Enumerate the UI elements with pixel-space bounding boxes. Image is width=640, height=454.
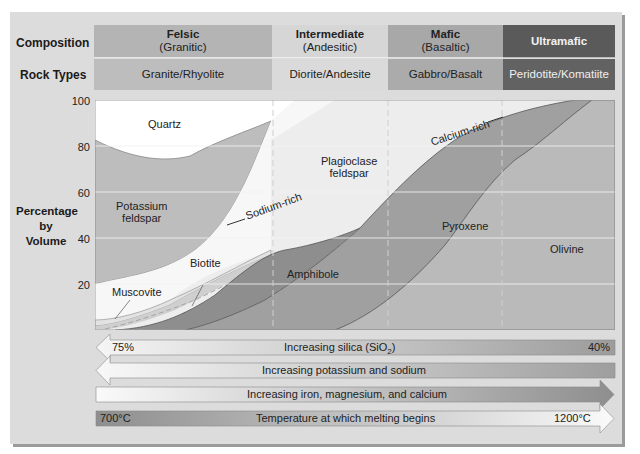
temperature-left-value: 700°C (100, 409, 131, 427)
silica-label: Increasing silica (SiO2) (284, 338, 395, 356)
silica-right-value: 40% (588, 338, 610, 356)
iron-magnesium-calcium-label: Increasing iron, magnesium, and calcium (247, 385, 447, 403)
temperature-label: Temperature at which melting begins (256, 409, 435, 427)
potassium-sodium-label: Increasing potassium and sodium (262, 361, 426, 379)
temperature-right-value: 1200°C (554, 409, 591, 427)
silica-left-value: 75% (112, 338, 134, 356)
